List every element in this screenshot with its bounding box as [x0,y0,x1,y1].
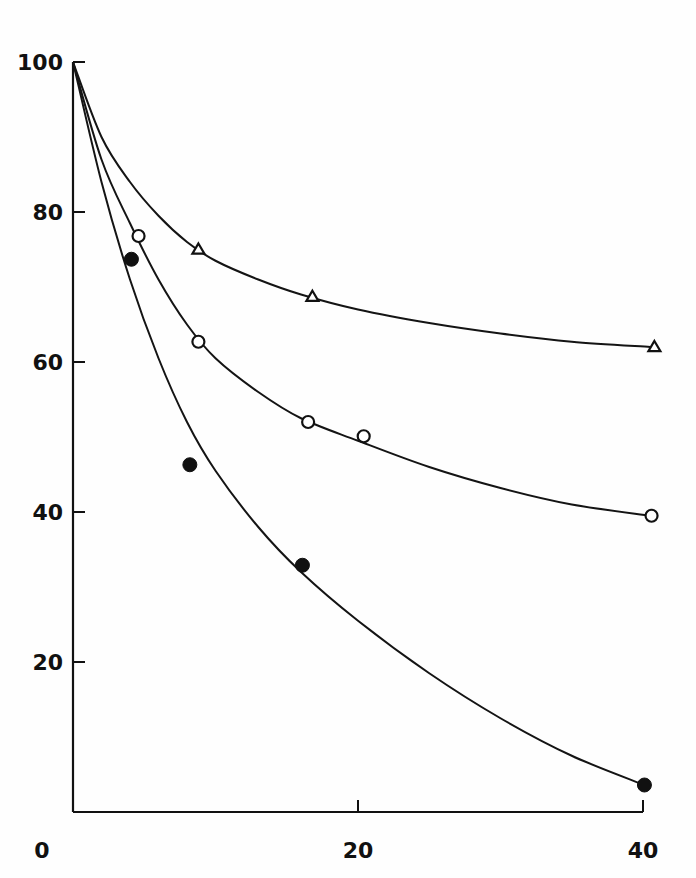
filled-circle-marker-icon [295,558,309,572]
chart-canvas: 1008060402002040 [0,0,696,878]
triangle-marker-icon [192,244,204,254]
x-tick-label: 20 [343,838,374,863]
open-circle-marker-icon [302,416,314,428]
open-circle-marker-icon [358,430,370,442]
open-circle-marker-icon [133,230,145,242]
axes: 1008060402002040 [17,50,658,863]
y-tick-label: 40 [32,500,63,525]
y-tick-label: 100 [17,50,63,75]
y-tick-label: 20 [32,650,63,675]
open-circle-marker-icon [192,336,204,348]
fit-curves [73,62,650,785]
fit-curve-triangles [73,62,650,347]
x-tick-label: 0 [34,838,49,863]
filled-circle-marker-icon [183,458,197,472]
filled-circle-marker-icon [637,778,651,792]
x-tick-label: 40 [628,838,659,863]
data-markers [124,230,660,792]
fit-curve-open-circles [73,62,650,516]
filled-circle-marker-icon [124,252,138,266]
chart: 1008060402002040 [0,0,696,878]
fit-curve-filled-circles [73,62,644,785]
y-tick-label: 60 [32,350,63,375]
triangle-marker-icon [648,341,660,351]
open-circle-marker-icon [646,510,658,522]
triangle-marker-icon [306,291,318,301]
y-tick-label: 80 [32,200,63,225]
